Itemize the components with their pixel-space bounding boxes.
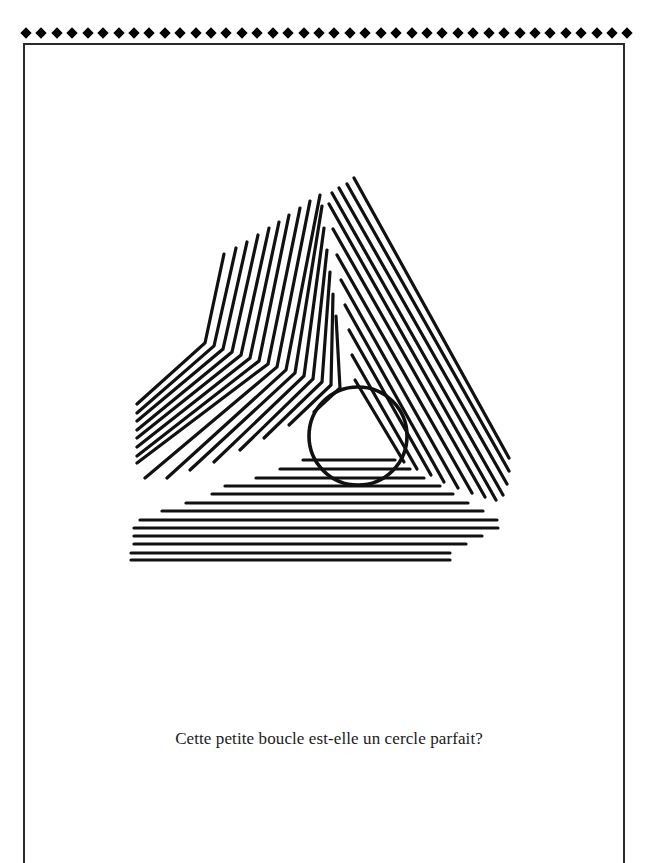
right-band-line (352, 355, 417, 469)
bottom-line-band (131, 460, 498, 560)
right-band-line (329, 204, 496, 500)
left-band-line (137, 254, 224, 404)
right-band-line (337, 255, 472, 493)
caption-text: Cette petite boucle est-elle un cercle p… (0, 729, 658, 749)
right-band-line (349, 330, 431, 475)
right-band-line (339, 188, 507, 484)
right-line-band (329, 178, 509, 500)
right-band-line (347, 184, 509, 471)
